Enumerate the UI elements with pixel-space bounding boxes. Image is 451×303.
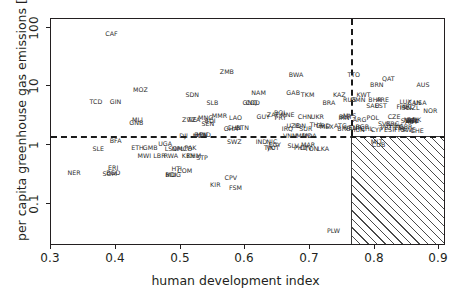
point-label: SEN bbox=[201, 121, 214, 127]
point-label: NGA bbox=[193, 133, 207, 139]
x-axis-title: human development index bbox=[10, 273, 451, 288]
x-tick-label-0.3: 0.3 bbox=[30, 251, 70, 265]
x-tick-label-0.8: 0.8 bbox=[354, 251, 394, 265]
point-label: BDI bbox=[165, 171, 176, 177]
point-label: MEX bbox=[320, 124, 334, 130]
point-label: GUY bbox=[256, 114, 270, 120]
plot-area: CAFZMBBWATTOQATMOZBRNAUSSDNGABNAMTKMKAZK… bbox=[50, 18, 445, 245]
point-label: DJI bbox=[179, 133, 188, 139]
scatter-chart: per capita greenhouse gas emissions [tCO… bbox=[0, 0, 451, 303]
point-label: GMB bbox=[143, 144, 158, 150]
x-tick-0.8 bbox=[374, 245, 375, 249]
point-label: SVK bbox=[378, 121, 391, 127]
point-label: GAB bbox=[286, 90, 300, 96]
point-label: NOR bbox=[423, 108, 437, 114]
point-label: TCD bbox=[90, 99, 103, 105]
point-label: MWI bbox=[138, 153, 152, 159]
x-tick-0.5 bbox=[180, 245, 181, 249]
point-label: TKM bbox=[301, 92, 315, 98]
point-label: TZA bbox=[188, 116, 201, 122]
x-tick-0.7 bbox=[309, 245, 310, 249]
point-label: SWZ bbox=[227, 139, 242, 145]
x-tick-0.4 bbox=[115, 245, 116, 249]
point-label: BFA bbox=[110, 138, 122, 144]
point-label: SLB bbox=[206, 100, 218, 106]
x-tick-0.3 bbox=[50, 245, 51, 249]
x-tick-0.9 bbox=[438, 245, 439, 249]
point-label: STP bbox=[196, 155, 208, 161]
point-label: FSM bbox=[229, 185, 242, 191]
point-label: PRY bbox=[275, 115, 287, 121]
point-label: NAM bbox=[251, 90, 266, 96]
x-tick-label-0.9: 0.9 bbox=[418, 251, 451, 265]
point-label: LAO bbox=[229, 115, 242, 121]
x-tick-label-0.7: 0.7 bbox=[289, 251, 329, 265]
point-label: NER bbox=[67, 170, 80, 176]
point-label: CAF bbox=[105, 31, 117, 37]
x-tick-0.6 bbox=[244, 245, 245, 249]
y-tick-label-0.1: 0.1 bbox=[27, 184, 41, 224]
point-label: BRN bbox=[370, 82, 384, 88]
point-label: TTO bbox=[347, 72, 360, 78]
point-label: EST bbox=[375, 103, 387, 109]
x-tick-label-0.5: 0.5 bbox=[160, 251, 200, 265]
point-label: PAK bbox=[185, 144, 197, 150]
point-label: ARG bbox=[353, 116, 367, 122]
point-label: KIR bbox=[210, 182, 221, 188]
point-label: VUT bbox=[267, 144, 280, 150]
point-label: IRN bbox=[338, 115, 349, 121]
y-tick-label-100: 100 bbox=[27, 8, 41, 48]
point-label: SDN bbox=[185, 92, 199, 98]
point-label: CHN bbox=[298, 114, 312, 120]
point-label: CPV bbox=[225, 174, 238, 180]
point-label: ZMB bbox=[220, 69, 234, 75]
point-label: GHA bbox=[224, 126, 238, 132]
point-label: OMN bbox=[350, 97, 365, 103]
point-label: GNB bbox=[129, 120, 143, 126]
point-label: CUB bbox=[372, 142, 385, 148]
target-region-hatch bbox=[351, 136, 445, 245]
point-label: SLE bbox=[92, 146, 104, 152]
y-tick-label-10: 10 bbox=[27, 66, 41, 106]
x-tick-label-0.4: 0.4 bbox=[95, 251, 135, 265]
point-label: BGR bbox=[356, 124, 370, 130]
point-label: UKR bbox=[311, 114, 324, 120]
x-tick-label-0.6: 0.6 bbox=[224, 251, 264, 265]
point-label: MOZ bbox=[133, 87, 148, 93]
point-label: RWA bbox=[164, 153, 178, 159]
point-label: COD bbox=[246, 100, 260, 106]
point-label: NZL bbox=[407, 105, 420, 111]
point-label: BRA bbox=[322, 100, 335, 106]
point-label: BGD bbox=[106, 170, 120, 176]
point-label: GIN bbox=[110, 99, 122, 105]
point-label: MDA bbox=[302, 133, 317, 139]
point-label: CHE bbox=[411, 128, 424, 134]
y-tick-label-1: 1 bbox=[27, 125, 41, 165]
point-label: AUS bbox=[416, 82, 429, 88]
point-label: BWA bbox=[289, 72, 303, 78]
point-label: LKA bbox=[317, 146, 329, 152]
point-label: PLW bbox=[327, 228, 340, 234]
